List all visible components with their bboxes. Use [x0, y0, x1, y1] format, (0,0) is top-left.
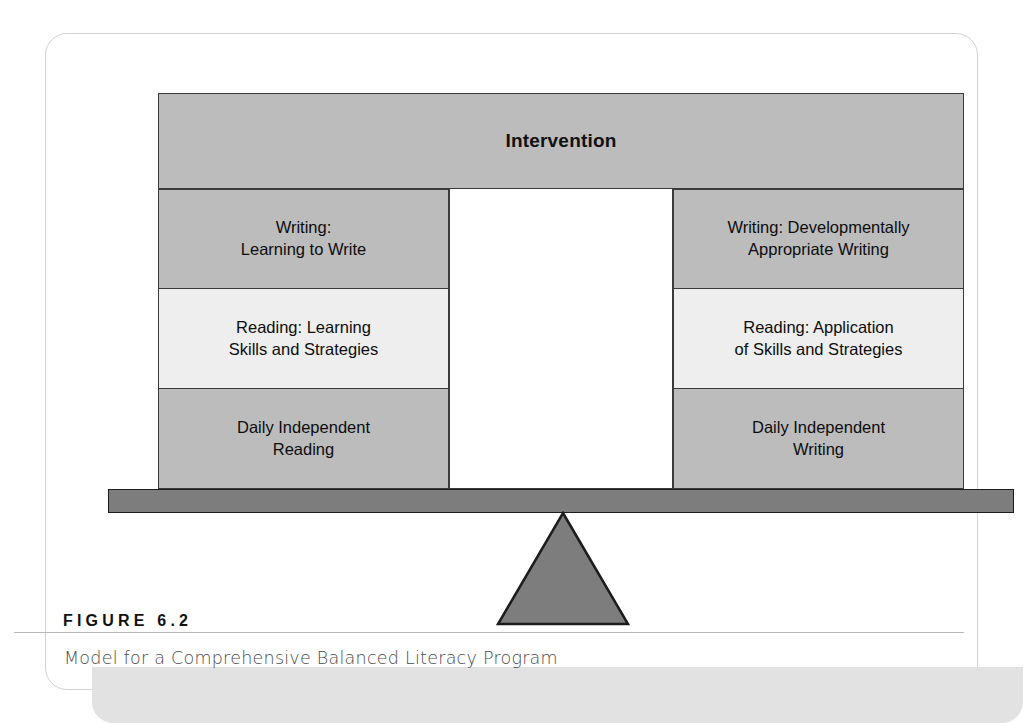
- balance-beam: [108, 489, 1014, 513]
- balance-scale-diagram: Intervention Writing:Learning to Write R…: [46, 34, 1025, 634]
- caption-divider-rule: [14, 632, 964, 633]
- right-pan-cell-writing: Writing: DevelopmentallyAppropriate Writ…: [673, 189, 964, 289]
- scale-table: Intervention Writing:Learning to Write R…: [158, 93, 964, 489]
- intervention-title: Intervention: [505, 130, 616, 152]
- right-pan-cell-reading: Reading: Applicationof Skills and Strate…: [673, 289, 964, 389]
- right-pan-cell-daily-independent: Daily IndependentWriting: [673, 389, 964, 489]
- figure-card: Intervention Writing:Learning to Write R…: [45, 33, 978, 690]
- caption-band: [92, 667, 1023, 723]
- left-pan-cell-writing: Writing:Learning to Write: [158, 189, 449, 289]
- fulcrum-triangle: [496, 511, 630, 627]
- left-pan-cell-daily-independent: Daily IndependentReading: [158, 389, 449, 489]
- intervention-header: Intervention: [158, 93, 964, 189]
- figure-caption: Model for a Comprehensive Balanced Liter…: [64, 648, 558, 668]
- left-pan: Writing:Learning to Write Reading: Learn…: [158, 189, 449, 489]
- left-pan-cell-reading: Reading: LearningSkills and Strategies: [158, 289, 449, 389]
- right-pan: Writing: DevelopmentallyAppropriate Writ…: [673, 189, 964, 489]
- figure-label: FIGURE 6.2: [63, 612, 192, 630]
- center-gap: [449, 189, 673, 489]
